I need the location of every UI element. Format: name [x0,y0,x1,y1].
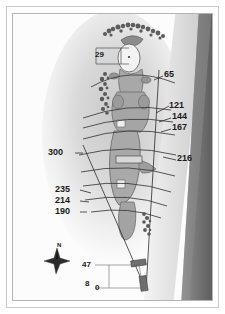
green-depth-label-29: 29 [95,51,104,59]
tee-label-47: 47 [82,261,91,269]
yardage-map-root: 29 65 121 144 167 216 300 235 214 190 47… [0,0,225,314]
pin-position [128,56,130,58]
yardage-label-300: 300 [48,148,63,157]
yardage-label-235: 235 [55,185,70,194]
yardage-label-216: 216 [177,154,192,163]
tee-label-8: 8 [85,280,89,288]
yardage-label-121: 121 [169,101,184,110]
yardage-label-65: 65 [164,70,174,79]
map-stage: 29 65 121 144 167 216 300 235 214 190 47… [13,14,212,300]
yardage-label-144: 144 [172,112,187,121]
inner-frame: 29 65 121 144 167 216 300 235 214 190 47… [12,13,213,301]
yardage-label-190: 190 [55,207,70,216]
fairway-bunker-right-upper [139,95,150,109]
sprinkler-marker-lower [117,180,125,188]
tee-label-0: 0 [95,284,99,292]
greenside-bunker-right [141,77,151,83]
fairway-bunker-left-upper [113,95,124,109]
yardage-label-214: 214 [55,196,70,205]
yardage-label-167: 167 [172,123,187,132]
compass-north-label: N [57,242,61,248]
yardage-cross-marker [116,156,142,163]
sprinkler-marker-upper [117,120,125,127]
